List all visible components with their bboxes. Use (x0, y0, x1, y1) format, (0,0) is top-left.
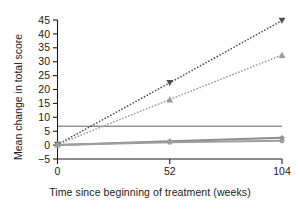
marker-triangle-up (279, 52, 286, 58)
x-axis-title: Time since beginning of treatment (weeks… (0, 186, 300, 198)
chart-series-layer (54, 18, 285, 148)
y-tick-label: 5 (44, 125, 50, 137)
y-tick-label: 20 (38, 83, 50, 95)
y-tick-label: 10 (38, 111, 50, 123)
marker-triangle-down (166, 80, 173, 86)
x-tick-label: 104 (273, 165, 291, 177)
y-axis-title: Mean change in total score (12, 34, 24, 160)
clipped-caption-text (0, 203, 300, 209)
y-axis-title-wrapper: Mean change in total score (0, 0, 18, 170)
y-tick-label: 45 (38, 14, 50, 26)
y-tick-label: 25 (38, 69, 50, 81)
chart-series (54, 18, 285, 148)
y-tick-label: 15 (38, 97, 50, 109)
y-tick-label: −5 (38, 153, 50, 165)
x-tick-label: 52 (164, 165, 176, 177)
x-axis-ticks: 052104 (55, 159, 291, 177)
y-tick-label: 40 (38, 28, 50, 40)
marker-circle (55, 143, 60, 148)
x-tick-label: 0 (55, 165, 61, 177)
marker-triangle-down (279, 18, 286, 24)
y-tick-label: 30 (38, 55, 50, 67)
y-tick-label: 35 (38, 41, 50, 53)
y-tick-label: 0 (44, 139, 50, 151)
chart-series (54, 52, 285, 148)
chart-figure: −5051015202530354045 052104 Mean change … (0, 0, 300, 209)
marker-circle (167, 140, 172, 145)
marker-circle (280, 138, 285, 143)
marker-triangle-up (166, 96, 173, 102)
chart-plot-area: −5051015202530354045 052104 (0, 0, 300, 209)
